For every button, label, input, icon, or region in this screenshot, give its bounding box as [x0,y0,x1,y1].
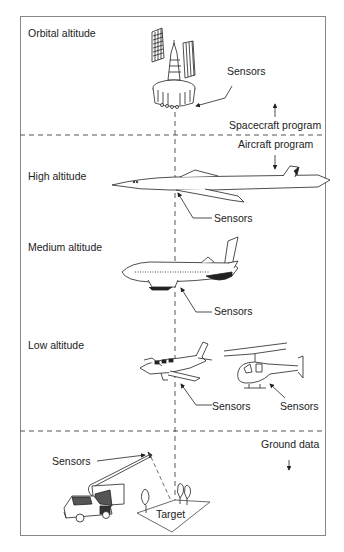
callout-satellite-sensors: Sensors [227,65,266,77]
program-label-spacecraft: Spacecraft program [229,119,321,131]
plane-sensors-pointer [181,384,212,405]
helicopter-icon [224,343,303,388]
section-label-ground: Ground data [261,438,319,450]
target-label: Target [156,508,185,520]
airliner-icon [122,237,238,290]
sensor-view-line [151,457,172,503]
truck-sensors-pointer [97,455,145,461]
satellite-sensors-pointer [196,86,232,106]
callout-helicopter-sensors: Sensors [280,400,319,412]
callout-plane-sensors: Sensors [212,400,251,412]
satellite-icon [152,28,195,109]
section-label-medium: Medium altitude [28,241,102,253]
remote-sensing-diagram [0,0,344,552]
jet-sensors-pointer [178,193,212,218]
program-label-aircraft: Aircraft program [238,138,313,150]
supersonic-jet-icon [112,166,330,202]
airliner-sensors-pointer [181,288,212,312]
callout-jet-sensors: Sensors [214,212,253,224]
helicopter-sensors-pointer [270,384,285,398]
section-label-orbital: Orbital altitude [28,27,96,39]
small-plane-icon [140,342,212,381]
section-label-low: Low altitude [28,339,84,351]
section-label-high: High altitude [28,170,86,182]
callout-truck-sensors: Sensors [52,455,91,467]
callout-airliner-sensors: Sensors [214,305,253,317]
